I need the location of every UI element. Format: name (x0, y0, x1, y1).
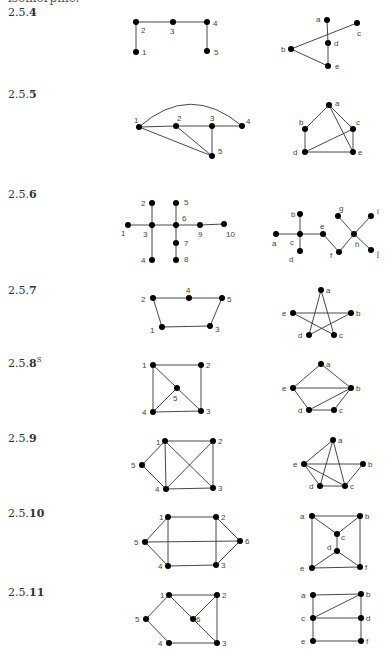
graph-vertex (357, 564, 363, 570)
vertex-label: 3 (210, 114, 215, 123)
vertex-label: 3 (170, 27, 175, 36)
vertex-label: b (299, 118, 304, 127)
graph-vertex (209, 123, 215, 129)
vertex-label: 1 (159, 513, 164, 522)
graph-edge (177, 388, 201, 411)
graph-edge (329, 105, 353, 129)
vertex-label: 8 (184, 255, 189, 264)
graph-right: abcdefghij (272, 204, 379, 264)
vertex-label: 2 (141, 199, 146, 208)
graph-vertex (354, 20, 360, 26)
graph-right: abcdef (301, 590, 371, 646)
vertex-label: 3 (206, 407, 211, 416)
vertex-label: 1 (142, 48, 147, 57)
graph-vertex (149, 257, 155, 263)
vertex-label: d (298, 406, 302, 415)
graph-vertex (310, 615, 316, 621)
vertex-label: 3 (221, 561, 226, 570)
graph-figures: 12345abcde12345abcde12345678910abcdefghi… (0, 0, 392, 661)
vertex-label: 5 (214, 48, 219, 57)
vertex-label: g (339, 204, 343, 213)
vertex-label: 4 (186, 286, 191, 295)
graph-vertex (358, 615, 364, 621)
graph-edge (337, 551, 360, 567)
graph-vertex (334, 548, 340, 554)
vertex-label: b (281, 45, 286, 54)
graph-edge (312, 551, 337, 568)
graph-edge (354, 216, 371, 234)
vertex-label: d (366, 614, 370, 623)
vertex-label: b (356, 384, 361, 393)
graph-vertex (342, 483, 348, 489)
graph-vertex (213, 562, 219, 568)
vertex-label: d (309, 482, 313, 491)
graph-vertex (219, 295, 225, 301)
graph-vertex (207, 323, 213, 329)
vertex-label: f (366, 637, 369, 646)
graph-vertex (173, 222, 179, 228)
vertex-label: c (339, 331, 343, 340)
graph-vertex (143, 616, 149, 622)
vertex-label: 6 (245, 537, 250, 546)
graph-right: abcde (282, 286, 361, 340)
vertex-label: a (316, 15, 321, 24)
graph-edge (304, 440, 333, 464)
vertex-label: b (291, 210, 296, 219)
graph-vertex (133, 49, 139, 55)
graph-edge (339, 234, 354, 252)
vertex-label: a (301, 591, 306, 600)
graph-vertex (173, 257, 179, 263)
graph-right: abcde (293, 99, 363, 157)
graph-edge (291, 23, 357, 49)
vertex-label: e (301, 637, 306, 646)
graph-left: 12345 (142, 361, 211, 417)
graph-edge (309, 290, 321, 335)
vertex-label: 6 (196, 615, 201, 624)
graph-vertex (174, 385, 180, 391)
graph-edge (166, 488, 213, 489)
graph-edge (337, 516, 360, 534)
graph-vertex (306, 407, 312, 413)
graph-vertex (297, 248, 303, 254)
graph-vertex (306, 332, 312, 338)
graph-vertex (173, 240, 179, 246)
graph-vertex (348, 385, 354, 391)
vertex-label: a (338, 436, 343, 445)
graph-vertex (149, 222, 155, 228)
vertex-label: 2 (221, 513, 226, 522)
vertex-label: 5 (135, 615, 140, 624)
graph-edge (305, 105, 329, 129)
vertex-label: e (300, 564, 305, 573)
graph-vertex (214, 592, 220, 598)
graph-edge (162, 326, 210, 327)
vertex-label: b (356, 309, 361, 318)
graph-vertex (149, 200, 155, 206)
graph-edge (323, 234, 339, 252)
graph-edge (166, 441, 213, 489)
graph-vertex (301, 461, 307, 467)
graph-edge (168, 565, 216, 566)
graph-vertex (325, 40, 331, 46)
graph-left: 12345 (131, 437, 223, 494)
vertex-label: 10 (226, 230, 235, 239)
vertex-label: 3 (215, 325, 220, 334)
graph-right: abcdef (300, 512, 370, 573)
graph-left: 12345678910 (121, 198, 235, 265)
graph-edge (145, 517, 168, 542)
vertex-label: 4 (158, 639, 163, 648)
vertex-label: e (358, 148, 363, 157)
graph-vertex (350, 149, 356, 155)
graph-vertex (302, 149, 308, 155)
vertex-label: d (289, 255, 293, 264)
textbook-page: isomorphic. 2.5.42.5.52.5.62.5.72.5.8S2.… (0, 0, 392, 661)
graph-edge (338, 216, 354, 234)
graph-vertex (331, 407, 337, 413)
vertex-label: b (368, 460, 373, 469)
graph-edge (321, 290, 334, 335)
graph-edge (146, 595, 169, 619)
graph-left: 12345 (134, 104, 251, 159)
graph-vertex (290, 310, 296, 316)
graph-vertex (326, 102, 332, 108)
graph-vertex (368, 213, 374, 219)
graph-vertex (213, 514, 219, 520)
